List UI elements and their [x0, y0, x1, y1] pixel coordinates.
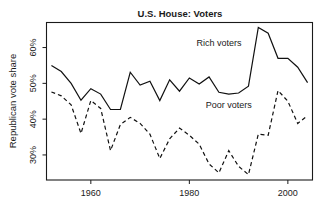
y-axis-label: Republican vote share [7, 54, 18, 149]
annotation-rich-voters: Rich voters [196, 38, 242, 48]
y-tick-label: 50% [28, 74, 38, 92]
voters-line-chart: U.S. House: Voters Republican vote share… [0, 0, 329, 216]
chart-background [0, 0, 329, 216]
annotation-poor-voters: Poor voters [206, 100, 253, 110]
y-tick-label: 30% [28, 146, 38, 164]
x-tick-label: 1960 [81, 188, 101, 198]
x-tick-label: 1980 [179, 188, 199, 198]
chart-figure: U.S. House: Voters Republican vote share… [0, 0, 329, 216]
y-tick-label: 60% [28, 39, 38, 57]
chart-title: U.S. House: Voters [138, 8, 223, 19]
x-tick-label: 2000 [278, 188, 298, 198]
y-tick-label: 40% [28, 110, 38, 128]
